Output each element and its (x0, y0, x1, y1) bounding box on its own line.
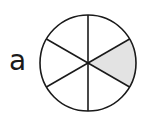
fraction-circle (0, 0, 145, 117)
shaded-sector (88, 39, 136, 87)
